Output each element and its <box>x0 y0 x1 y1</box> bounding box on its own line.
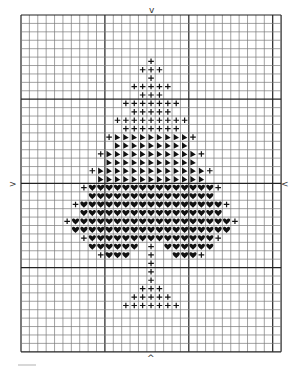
triangle-stitch-icon <box>132 159 137 165</box>
heart-stitch-icon <box>181 202 188 208</box>
cross-stitch-icon <box>131 101 137 107</box>
cross-stitch-icon <box>190 134 196 140</box>
heart-stitch-icon <box>105 193 112 199</box>
cross-stitch-icon <box>157 117 163 123</box>
heart-stitch-icon <box>131 210 138 216</box>
heart-stitch-icon <box>198 227 205 233</box>
cross-stitch-icon <box>73 202 79 208</box>
cross-stitch-icon <box>157 286 163 292</box>
heart-stitch-icon <box>97 210 104 216</box>
triangle-stitch-icon <box>165 142 170 148</box>
cross-stitch-icon <box>215 235 221 241</box>
triangle-stitch-icon <box>123 159 128 165</box>
cross-stitch-icon <box>165 294 171 300</box>
heart-stitch-icon <box>122 218 129 224</box>
triangle-stitch-icon <box>157 134 162 140</box>
heart-stitch-icon <box>89 202 96 208</box>
cross-stitch-icon <box>64 218 70 224</box>
cross-stitch-icon <box>148 277 154 283</box>
cross-stitch-icon <box>148 59 154 65</box>
cross-stitch-icon <box>140 67 146 73</box>
heart-stitch-icon <box>72 218 79 224</box>
heart-stitch-icon <box>131 185 138 191</box>
heart-stitch-icon <box>198 193 205 199</box>
heart-stitch-icon <box>131 193 138 199</box>
heart-stitch-icon <box>89 193 96 199</box>
heart-stitch-icon <box>206 210 213 216</box>
cross-stitch-icon <box>148 117 154 123</box>
heart-stitch-icon <box>122 193 129 199</box>
heart-stitch-icon <box>189 235 196 241</box>
center-marker-bottom-icon: ^ <box>147 354 155 363</box>
heart-stitch-icon <box>173 185 180 191</box>
heart-stitch-icon <box>206 193 213 199</box>
triangle-stitch-icon <box>132 134 137 140</box>
heart-stitch-icon <box>189 218 196 224</box>
cross-stitch-icon <box>148 294 154 300</box>
cross-stitch-icon <box>140 117 146 123</box>
heart-stitch-icon <box>206 227 213 233</box>
triangle-stitch-icon <box>98 176 103 182</box>
heart-stitch-icon <box>164 227 171 233</box>
triangle-stitch-icon <box>140 168 145 174</box>
heart-stitch-icon <box>181 244 188 250</box>
heart-stitch-icon <box>89 185 96 191</box>
heart-stitch-icon <box>131 227 138 233</box>
heart-stitch-icon <box>156 202 163 208</box>
cross-stitch-icon <box>98 151 104 157</box>
triangle-stitch-icon <box>174 159 179 165</box>
heart-stitch-icon <box>105 244 112 250</box>
cross-stitch-icon <box>115 117 121 123</box>
heart-stitch-icon <box>198 218 205 224</box>
triangle-stitch-icon <box>123 142 128 148</box>
heart-stitch-icon <box>164 210 171 216</box>
heart-stitch-icon <box>164 235 171 241</box>
triangle-stitch-icon <box>140 176 145 182</box>
cross-stitch-icon <box>157 84 163 90</box>
cross-stitch-icon <box>165 101 171 107</box>
cross-stitch-icon <box>123 303 129 309</box>
triangle-stitch-icon <box>148 151 153 157</box>
triangle-stitch-icon <box>165 134 170 140</box>
triangle-stitch-icon <box>148 134 153 140</box>
triangle-stitch-icon <box>199 176 204 182</box>
cross-stitch-icon <box>157 92 163 98</box>
heart-stitch-icon <box>156 210 163 216</box>
heart-stitch-icon <box>223 227 230 233</box>
heart-stitch-icon <box>215 202 222 208</box>
cross-stitch-icon <box>207 168 213 174</box>
triangle-stitch-icon <box>157 151 162 157</box>
heart-stitch-icon <box>198 244 205 250</box>
heart-stitch-icon <box>139 202 146 208</box>
heart-stitch-icon <box>206 185 213 191</box>
heart-stitch-icon <box>206 218 213 224</box>
triangle-stitch-icon <box>174 168 179 174</box>
cross-stitch-icon <box>165 126 171 132</box>
triangle-stitch-icon <box>140 159 145 165</box>
cross-stitch-icon <box>131 303 137 309</box>
heart-stitch-icon <box>131 202 138 208</box>
heart-stitch-icon <box>89 227 96 233</box>
triangle-stitch-icon <box>182 142 187 148</box>
triangle-stitch-icon <box>132 151 137 157</box>
cross-stitch-icon <box>157 101 163 107</box>
heart-stitch-icon <box>198 235 205 241</box>
heart-stitch-icon <box>173 210 180 216</box>
triangle-stitch-icon <box>148 159 153 165</box>
triangle-stitch-icon <box>182 159 187 165</box>
cross-stitch-icon <box>224 202 230 208</box>
cross-stitch-icon <box>148 84 154 90</box>
triangle-stitch-icon <box>157 176 162 182</box>
cross-stitch-icon <box>148 109 154 115</box>
triangle-stitch-icon <box>106 168 111 174</box>
center-marker-left-icon: > <box>9 180 17 189</box>
cross-stitch-icon <box>165 109 171 115</box>
cross-stitch-icon <box>98 252 104 258</box>
heart-stitch-icon <box>122 185 129 191</box>
heart-stitch-icon <box>97 202 104 208</box>
heart-stitch-icon <box>147 227 154 233</box>
heart-stitch-icon <box>139 193 146 199</box>
triangle-stitch-icon <box>182 151 187 157</box>
triangle-stitch-icon <box>174 142 179 148</box>
scan-artifact-bar <box>18 364 36 366</box>
